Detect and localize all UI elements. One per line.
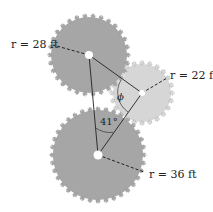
hub-bottom	[94, 151, 103, 160]
label-angle-41: 41°	[100, 117, 118, 127]
label-radius-top: r = 28 ft	[11, 39, 58, 50]
label-radius-right: r = 22 ft	[170, 70, 213, 81]
hub-top	[85, 51, 93, 59]
hub-right	[139, 90, 145, 96]
label-radius-bottom: r = 36 ft	[149, 169, 196, 180]
label-angle-phi: ϕ	[117, 92, 124, 102]
